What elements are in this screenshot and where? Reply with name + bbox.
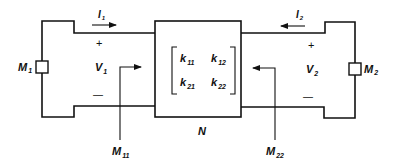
m1-element-icon xyxy=(36,61,48,73)
network-label: N xyxy=(198,125,207,137)
m22-probe-arrow-icon xyxy=(253,68,275,140)
port2-top-wire xyxy=(241,22,355,63)
m2-label: M2 xyxy=(364,63,378,76)
two-port-diagram: k11 k12 k21 k22 N I1 I2 + V1 — + V2 — M1… xyxy=(0,0,396,167)
v2-label: V2 xyxy=(306,63,318,77)
port2-circuit xyxy=(241,22,361,118)
v1-plus-sign: + xyxy=(96,37,102,49)
port2-bottom-wire xyxy=(241,75,355,118)
v1-label: V1 xyxy=(95,61,107,75)
m2-element-icon xyxy=(349,63,361,75)
m22-label: M22 xyxy=(266,145,284,159)
m11-label: M11 xyxy=(112,145,130,159)
network-box xyxy=(155,21,241,117)
i2-label: I2 xyxy=(296,9,304,21)
m11-probe-arrow-icon xyxy=(120,67,141,140)
v2-plus-sign: + xyxy=(308,39,314,51)
m1-label: M1 xyxy=(18,61,32,74)
i1-label: I1 xyxy=(98,9,106,21)
v1-minus-sign: — xyxy=(93,89,103,100)
v2-minus-sign: — xyxy=(303,91,313,102)
